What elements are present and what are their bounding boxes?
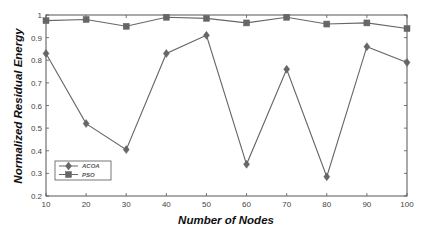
x-tick-label: 40 <box>162 200 171 209</box>
line-chart: 0.20.30.40.50.60.70.80.91 10203040506070… <box>0 0 427 231</box>
legend-label: PSO <box>82 172 95 178</box>
x-tick-label: 60 <box>242 200 251 209</box>
square-marker <box>163 14 169 20</box>
y-axis-title: Normalized Residual Energy <box>12 28 24 184</box>
y-tick-label: 0.5 <box>31 124 43 133</box>
x-tick-label: 100 <box>400 200 414 209</box>
y-tick-label: 0.8 <box>31 56 43 65</box>
x-tick-label: 80 <box>322 200 331 209</box>
y-tick-label: 0.6 <box>31 102 43 111</box>
x-tick-label: 50 <box>202 200 211 209</box>
square-marker <box>284 14 290 20</box>
x-axis-title: Number of Nodes <box>178 214 274 226</box>
square-marker <box>43 18 49 24</box>
square-marker <box>324 21 330 27</box>
x-tick-label: 90 <box>362 200 371 209</box>
y-tick-label: 0.9 <box>31 34 43 43</box>
x-tick-label: 10 <box>42 200 51 209</box>
x-tick-label: 20 <box>82 200 91 209</box>
y-tick-label: 0.4 <box>31 147 43 156</box>
square-marker <box>364 20 370 26</box>
y-tick-label: 1 <box>38 11 43 20</box>
square-marker <box>123 23 129 29</box>
legend: ACOAPSO <box>55 161 111 180</box>
square-marker <box>404 26 410 32</box>
x-tick-label: 30 <box>122 200 131 209</box>
square-marker <box>66 172 72 178</box>
square-marker <box>244 20 250 26</box>
square-marker <box>83 17 89 23</box>
square-marker <box>203 15 209 21</box>
x-tick-label: 70 <box>282 200 291 209</box>
legend-label: ACOA <box>81 163 100 169</box>
y-tick-label: 0.3 <box>31 169 43 178</box>
y-tick-label: 0.7 <box>31 79 43 88</box>
